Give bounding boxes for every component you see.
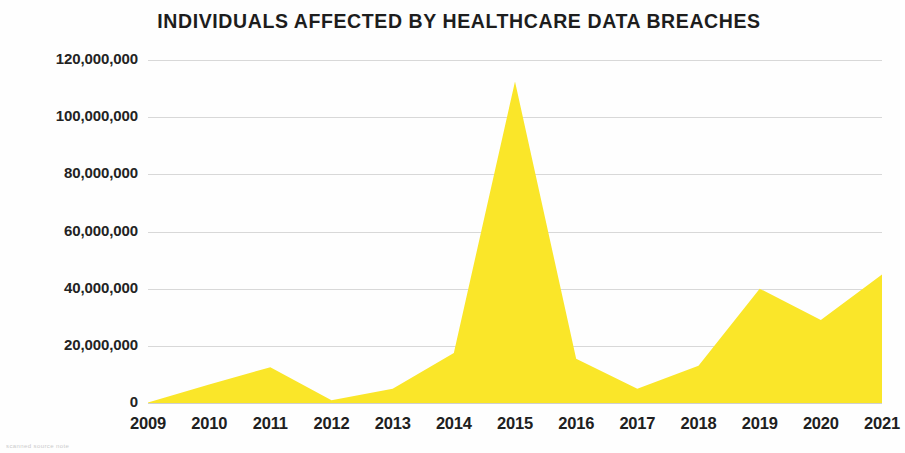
x-tick-label: 2014 — [423, 414, 485, 433]
y-tick-label: 100,000,000 — [20, 107, 138, 124]
y-tick-label: 80,000,000 — [20, 164, 138, 181]
gridline — [148, 403, 882, 404]
x-axis: 2009201020112012201320142015201620172018… — [148, 414, 882, 442]
y-tick-label: 0 — [20, 393, 138, 410]
y-tick-label: 40,000,000 — [20, 279, 138, 296]
x-tick-label: 2012 — [301, 414, 363, 433]
x-tick-label: 2019 — [729, 414, 791, 433]
x-tick-label: 2013 — [362, 414, 424, 433]
area-path — [148, 81, 882, 403]
x-tick-label: 2011 — [239, 414, 301, 433]
x-tick-label: 2016 — [545, 414, 607, 433]
x-tick-label: 2015 — [484, 414, 546, 433]
y-tick-label: 60,000,000 — [20, 222, 138, 239]
y-axis: 020,000,00040,000,00060,000,00080,000,00… — [10, 0, 138, 453]
y-tick-label: 120,000,000 — [20, 50, 138, 67]
y-tick-label: 20,000,000 — [20, 336, 138, 353]
x-tick-label: 2010 — [178, 414, 240, 433]
x-tick-label: 2017 — [606, 414, 668, 433]
x-tick-label: 2021 — [851, 414, 905, 433]
x-tick-label: 2018 — [668, 414, 730, 433]
plot-area — [148, 60, 882, 403]
area-series — [148, 60, 882, 403]
scan-footnote: scanned source note — [6, 443, 69, 449]
x-tick-label: 2020 — [790, 414, 852, 433]
x-tick-label: 2009 — [117, 414, 179, 433]
